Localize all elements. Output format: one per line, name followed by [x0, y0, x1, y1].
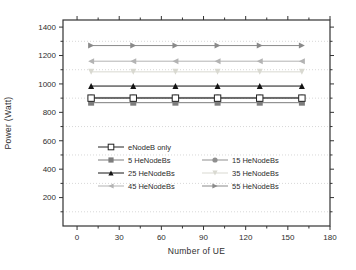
x-tick-label-120: 120	[239, 233, 253, 242]
series-marker-55-henodebs-40	[130, 43, 136, 49]
y-tick-label-800: 800	[43, 108, 57, 117]
legend-glyph-5-henodebs	[108, 157, 113, 162]
series-marker-45-henodebs-100	[215, 58, 221, 64]
series-marker-45-henodebs-70	[172, 58, 178, 64]
series-marker-enodeb-only-130	[257, 95, 263, 101]
legend-marker-5-henodebs-icon	[98, 155, 124, 165]
y-tick-label-1200: 1200	[38, 51, 56, 60]
legend-label-25-henodebs: 25 HeNodeBs	[128, 169, 175, 178]
legend-row: 45 HeNodeBs55 HeNodeBs	[98, 179, 274, 192]
legend-label-45-henodebs: 45 HeNodeBs	[128, 182, 175, 191]
x-tick-label-60: 60	[157, 233, 166, 242]
x-tick-label-180: 180	[323, 233, 337, 242]
series-marker-enodeb-only-70	[172, 95, 178, 101]
x-tick-label-30: 30	[115, 233, 124, 242]
series-marker-enodeb-only-100	[214, 95, 220, 101]
y-tick-label-200: 200	[43, 193, 57, 202]
series-marker-enodeb-only-160	[299, 95, 305, 101]
series-marker-55-henodebs-160	[299, 43, 305, 49]
y-tick-label-1000: 1000	[38, 80, 56, 89]
legend-row: 25 HeNodeBs35 HeNodeBs	[98, 166, 274, 179]
legend-row: 5 HeNodeBs15 HeNodeBs	[98, 153, 274, 166]
legend-marker-25-henodebs-icon	[98, 168, 124, 178]
legend-marker-15-henodebs-icon	[202, 155, 228, 165]
series-marker-55-henodebs-10	[88, 43, 94, 49]
legend-label-5-henodebs: 5 HeNodeBs	[128, 156, 171, 165]
legend-entry-55-henodebs: 55 HeNodeBs	[202, 179, 272, 192]
series-marker-45-henodebs-10	[88, 58, 94, 64]
series-marker-enodeb-only-10	[88, 95, 94, 101]
legend-marker-55-henodebs-icon	[202, 181, 228, 191]
x-tick-label-150: 150	[281, 233, 295, 242]
legend-marker-35-henodebs-icon	[202, 168, 228, 178]
legend: eNodeB only5 HeNodeBs15 HeNodeBs25 HeNod…	[98, 140, 274, 192]
y-tick-label-600: 600	[43, 137, 57, 146]
legend-marker-enodeb-only-icon	[98, 142, 124, 152]
legend-glyph-enodeb-only	[108, 144, 114, 150]
series-marker-enodeb-only-40	[130, 95, 136, 101]
legend-label-15-henodebs: 15 HeNodeBs	[232, 156, 279, 165]
plot-border	[63, 20, 330, 226]
legend-label-enodeb-only: eNodeB only	[128, 143, 171, 152]
y-tick-label-1400: 1400	[38, 23, 56, 32]
x-axis-title: Number of UE	[63, 246, 330, 256]
legend-entry-25-henodebs: 25 HeNodeBs	[98, 166, 202, 179]
legend-glyph-55-henodebs	[212, 183, 217, 188]
legend-entry-45-henodebs: 45 HeNodeBs	[98, 179, 202, 192]
series-marker-45-henodebs-40	[130, 58, 136, 64]
series-marker-45-henodebs-160	[299, 58, 305, 64]
legend-entry-5-henodebs: 5 HeNodeBs	[98, 153, 202, 166]
chart-canvas: 0306090120150180200400600800100012001400	[0, 0, 356, 270]
legend-row: eNodeB only	[98, 140, 274, 153]
legend-marker-45-henodebs-icon	[98, 181, 124, 191]
x-tick-label-90: 90	[199, 233, 208, 242]
y-tick-label-400: 400	[43, 165, 57, 174]
legend-entry-35-henodebs: 35 HeNodeBs	[202, 166, 272, 179]
legend-entry-15-henodebs: 15 HeNodeBs	[202, 153, 272, 166]
series-marker-45-henodebs-130	[257, 58, 263, 64]
legend-glyph-45-henodebs	[108, 183, 113, 188]
series-marker-55-henodebs-100	[215, 43, 221, 49]
legend-entry-enodeb-only: eNodeB only	[98, 140, 202, 153]
y-axis-title: Power (Watt)	[3, 20, 13, 226]
series-marker-55-henodebs-70	[172, 43, 178, 49]
x-tick-label-0: 0	[75, 233, 80, 242]
legend-label-55-henodebs: 55 HeNodeBs	[232, 182, 279, 191]
series-marker-55-henodebs-130	[257, 43, 263, 49]
figure-root: 0306090120150180200400600800100012001400…	[0, 0, 356, 270]
legend-glyph-15-henodebs	[212, 157, 217, 162]
legend-label-35-henodebs: 35 HeNodeBs	[232, 169, 279, 178]
